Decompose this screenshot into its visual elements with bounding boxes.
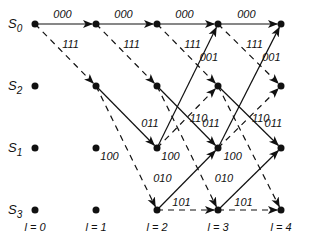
trellis-diagram: 0001110001110111000001110111000011100101… <box>0 0 309 246</box>
state-node <box>154 207 161 214</box>
output-label: 111 <box>123 38 140 50</box>
state-node <box>215 145 222 152</box>
output-label: 111 <box>184 38 201 50</box>
state-node <box>215 21 222 28</box>
output-label: 011 <box>141 117 159 129</box>
state-node <box>32 145 39 152</box>
state-label: S3 <box>8 202 23 220</box>
output-label: 110 <box>252 112 270 124</box>
output-label: 100 <box>100 150 119 162</box>
state-node <box>215 207 222 214</box>
output-label: 001 <box>262 51 280 63</box>
state-node <box>93 21 100 28</box>
labels: 0001110001110111000001110111000011100101… <box>8 8 292 233</box>
state-node <box>278 207 285 214</box>
output-label: 100 <box>223 150 242 162</box>
state-node <box>93 145 100 152</box>
state-node <box>154 83 161 90</box>
state-label: S1 <box>8 140 22 158</box>
state-node <box>278 145 285 152</box>
state-node <box>215 83 222 90</box>
state-node <box>154 21 161 28</box>
output-label: 000 <box>175 8 194 20</box>
state-node <box>32 83 39 90</box>
output-label: 111 <box>62 38 79 50</box>
transition-S2-S3-l3 <box>218 86 279 207</box>
time-label: l = 3 <box>207 221 229 233</box>
transition-S0-S2-l0 <box>35 24 94 84</box>
time-label: l = 1 <box>85 221 106 233</box>
output-label: 111 <box>246 38 263 50</box>
output-label: 000 <box>114 8 133 20</box>
output-label: 000 <box>237 8 256 20</box>
state-label: S2 <box>8 78 23 96</box>
state-node <box>32 21 39 28</box>
state-node <box>278 21 285 28</box>
output-label: 001 <box>200 51 218 63</box>
transition-S2-S3-l2 <box>157 86 216 207</box>
state-node <box>93 83 100 90</box>
state-node <box>154 145 161 152</box>
output-label: 010 <box>153 172 172 184</box>
output-label: 101 <box>234 196 252 208</box>
state-node <box>278 83 285 90</box>
output-label: 010 <box>215 172 234 184</box>
transition-S0-S2-l1 <box>96 24 155 84</box>
time-label: l = 4 <box>270 221 291 233</box>
output-label: 000 <box>53 8 72 20</box>
state-label: S0 <box>8 16 23 34</box>
time-label: l = 2 <box>146 221 167 233</box>
output-label: 100 <box>161 150 180 162</box>
output-label: 110 <box>190 112 208 124</box>
time-label: l = 0 <box>24 221 46 233</box>
state-node <box>93 207 100 214</box>
state-node <box>32 207 39 214</box>
output-label: 101 <box>172 196 190 208</box>
transition-S2-S3-l1 <box>96 86 155 207</box>
